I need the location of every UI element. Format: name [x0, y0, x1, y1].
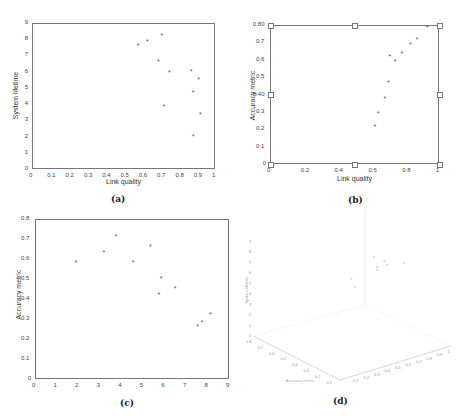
x-axis-label-a: Link quality: [106, 178, 141, 185]
square-marker: [437, 92, 443, 98]
y-tick-label: 0.2: [21, 335, 29, 341]
y-tick-label: 0.7: [21, 235, 29, 241]
y-tick-label: 3: [25, 116, 28, 122]
y-tick-label: 6: [25, 68, 28, 74]
x-tick-label: 0: [32, 382, 35, 388]
x-axis-label-b: Link quality: [337, 175, 372, 182]
y-tick-label: 0.3: [256, 108, 264, 114]
x-tick-label: 0.2: [66, 172, 74, 178]
data-point-marker: [197, 78, 201, 82]
data-point-marker: [148, 245, 152, 249]
x-tick-label: 0.3: [84, 172, 92, 178]
x-tick-label: 9: [226, 382, 229, 388]
data-point-marker: [408, 43, 412, 47]
plot-area-a: [32, 23, 215, 169]
y-tick-label: 0: [263, 160, 266, 166]
svg-text:0.6: 0.6: [269, 351, 275, 356]
y-tick-label: 2: [25, 133, 28, 139]
svg-text:4: 4: [249, 291, 252, 296]
data-point-marker: *: [376, 268, 379, 274]
x-tick-label: 0.7: [157, 172, 165, 178]
y-tick-label: 0: [25, 165, 28, 171]
x-tick-label: 0.8: [175, 172, 183, 178]
svg-text:1: 1: [249, 323, 252, 328]
data-point-marker: [136, 44, 140, 48]
data-point-marker: *: [373, 255, 376, 261]
svg-text:System lifetime: System lifetime: [244, 276, 249, 304]
square-marker: [352, 23, 358, 29]
svg-text:0.2: 0.2: [364, 375, 370, 380]
x-tick-label: 0.9: [194, 172, 202, 178]
y-tick-label: 0.8: [21, 215, 29, 221]
y-tick-label: 0.2: [256, 125, 264, 131]
data-point-marker: [191, 91, 195, 95]
svg-text:0.3: 0.3: [374, 372, 380, 377]
x-tick-label: 0.4: [102, 172, 110, 178]
data-point-marker: [173, 287, 177, 291]
y-tick-label: 0.5: [256, 73, 264, 79]
square-marker: [268, 23, 274, 29]
x-tick-label: 0.4: [335, 167, 343, 173]
data-point-marker: [159, 277, 163, 281]
x-tick-label: 0.1: [47, 172, 55, 178]
svg-text:0.3: 0.3: [304, 368, 310, 373]
data-point-marker: [102, 251, 106, 255]
caption-c: (c): [120, 398, 134, 408]
data-point-marker: [415, 38, 419, 42]
caption-b: (b): [348, 195, 363, 205]
data-point-marker: [376, 112, 380, 116]
x-tick-label: 6: [161, 382, 164, 388]
x-tick-label: 0: [267, 167, 270, 173]
svg-text:7: 7: [249, 260, 252, 265]
svg-text:0.5: 0.5: [395, 365, 401, 370]
x-tick-label: 1: [436, 167, 439, 173]
svg-text:2: 2: [249, 312, 252, 317]
y-tick-label: 5: [25, 84, 28, 90]
x-tick-label: 0: [29, 172, 32, 178]
svg-text:0.9: 0.9: [437, 352, 443, 357]
y-tick-label: 0.7: [256, 38, 264, 44]
svg-text:9: 9: [249, 239, 252, 244]
square-marker: [437, 162, 443, 168]
svg-text:6: 6: [249, 270, 252, 275]
data-point-marker: [167, 71, 171, 75]
y-axis-label-a: System lifetime: [12, 72, 19, 119]
svg-text:0.6: 0.6: [406, 362, 412, 367]
data-point-marker: [162, 105, 166, 109]
svg-text:0.1: 0.1: [327, 380, 333, 385]
svg-text:0: 0: [249, 333, 252, 338]
square-marker: [268, 92, 274, 98]
caption-a: (a): [111, 194, 125, 204]
svg-text:Accuracy metric: Accuracy metric: [286, 378, 314, 383]
data-point-marker: *: [403, 261, 406, 267]
data-point-marker: [157, 293, 161, 297]
square-marker: [352, 162, 358, 168]
y-tick-label: 0.6: [256, 56, 264, 62]
square-marker: [437, 23, 443, 29]
y-tick-label: 7: [25, 51, 28, 57]
x-tick-label: 3: [97, 382, 100, 388]
svg-text:0.4: 0.4: [292, 362, 298, 367]
data-point-marker: [189, 70, 193, 74]
y-tick-label: 0.5: [21, 275, 29, 281]
data-point-marker: [145, 40, 149, 44]
y-tick-label: 9: [25, 19, 28, 25]
svg-text:5: 5: [249, 281, 252, 286]
svg-text:0.5: 0.5: [281, 356, 287, 361]
y-tick-label: 1: [25, 149, 28, 155]
caption-d: (d): [333, 396, 348, 406]
x-tick-label: 5: [140, 382, 143, 388]
y-tick-label: 0.3: [21, 315, 29, 321]
y-tick-label: 0.4: [21, 295, 29, 301]
x-tick-label: 4: [118, 382, 121, 388]
y-tick-label: 0.6: [21, 255, 29, 261]
data-point-marker: [160, 34, 164, 38]
y-tick-label: 0.40: [253, 91, 265, 97]
data-point-marker: [196, 325, 200, 329]
svg-text:0.2: 0.2: [315, 374, 321, 379]
data-point-marker: [209, 313, 213, 317]
x-tick-label: 8: [204, 382, 207, 388]
data-point-marker: [373, 125, 377, 129]
data-point-marker: [393, 60, 397, 64]
y-tick-label: 4: [25, 100, 28, 106]
